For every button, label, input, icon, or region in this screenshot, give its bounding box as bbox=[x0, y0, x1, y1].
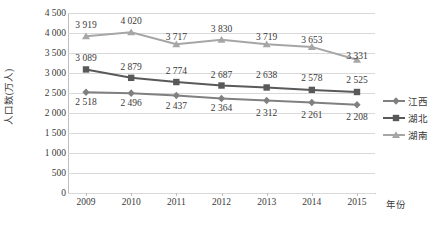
data-label: 2 578 bbox=[301, 73, 322, 83]
data-point-marker bbox=[308, 99, 315, 107]
data-label: 2 638 bbox=[256, 70, 277, 80]
y-axis-title: 人口数(万人) bbox=[0, 0, 16, 193]
y-axis-tick-label: 1 000 bbox=[20, 148, 66, 158]
data-point-marker bbox=[128, 89, 135, 97]
legend-item-湖北[interactable]: 湖北 bbox=[383, 109, 437, 126]
y-axis-tick-label: 1 500 bbox=[20, 128, 66, 138]
data-label: 3 717 bbox=[166, 32, 187, 42]
data-point-marker bbox=[83, 66, 89, 72]
data-point-marker bbox=[128, 75, 134, 81]
data-point-marker bbox=[263, 84, 269, 90]
y-axis-tick-label: 4 000 bbox=[20, 28, 66, 38]
data-label: 2 312 bbox=[256, 108, 277, 118]
x-axis-tick-labels: 2009201020112012201320142015 bbox=[68, 197, 376, 211]
x-axis-tick-label: 2015 bbox=[348, 197, 367, 207]
population-line-chart: 人口数(万人) 4 5004 0003 5003 0002 5002 0001 … bbox=[0, 0, 437, 226]
x-axis-tick-label: 2013 bbox=[257, 197, 276, 207]
x-axis-tick bbox=[176, 193, 177, 196]
data-label: 2 687 bbox=[211, 70, 232, 80]
y-axis-title-label: 人口数(万人) bbox=[1, 68, 15, 124]
legend-marker-diamond-icon bbox=[383, 95, 405, 107]
legend-marker-triangle-icon bbox=[383, 129, 405, 141]
data-label: 2 525 bbox=[346, 75, 367, 85]
y-axis-tick-label: 3 000 bbox=[20, 68, 66, 78]
x-axis-tick-label: 2010 bbox=[122, 197, 141, 207]
y-axis-tick-label: 500 bbox=[20, 168, 66, 178]
x-axis-title: 年份 bbox=[386, 197, 406, 211]
legend-item-湖南[interactable]: 湖南 bbox=[383, 126, 437, 143]
x-axis-tick bbox=[131, 193, 132, 196]
data-label: 4 020 bbox=[120, 16, 141, 26]
data-point-marker bbox=[392, 97, 399, 105]
data-point-marker bbox=[263, 97, 270, 105]
y-axis-tick-labels: 4 5004 0003 5003 0002 5002 0001 5001 000… bbox=[18, 0, 66, 200]
x-axis-tick bbox=[222, 193, 223, 196]
data-label: 3 919 bbox=[75, 20, 96, 30]
data-label: 3 830 bbox=[211, 24, 232, 34]
legend: 江西湖北湖南 bbox=[383, 92, 437, 143]
data-point-marker bbox=[393, 114, 399, 120]
legend-marker-square-icon bbox=[383, 112, 405, 124]
y-axis-tick-label: 4 500 bbox=[20, 8, 66, 18]
x-axis-tick bbox=[312, 193, 313, 196]
legend-label: 湖南 bbox=[405, 128, 428, 142]
data-label: 2 364 bbox=[211, 103, 232, 113]
legend-label: 江西 bbox=[405, 94, 428, 108]
legend-label: 湖北 bbox=[405, 111, 428, 125]
data-point-marker bbox=[173, 92, 180, 100]
data-label: 2 518 bbox=[75, 97, 96, 107]
data-point-marker bbox=[173, 79, 179, 85]
x-axis-tick-label: 2011 bbox=[167, 197, 186, 207]
y-axis-tick-label: 3 500 bbox=[20, 48, 66, 58]
x-axis-tick bbox=[357, 193, 358, 196]
data-point-marker bbox=[218, 82, 224, 88]
legend-item-江西[interactable]: 江西 bbox=[383, 92, 437, 109]
data-label: 2 879 bbox=[120, 62, 141, 72]
data-label: 2 261 bbox=[301, 110, 322, 120]
y-axis-tick-label: 2 500 bbox=[20, 88, 66, 98]
data-label: 2 437 bbox=[166, 101, 187, 111]
data-point-marker bbox=[353, 101, 360, 109]
y-axis-tick-label: 2 000 bbox=[20, 108, 66, 118]
x-axis-tick-label: 2014 bbox=[302, 197, 321, 207]
x-axis-tick-label: 2009 bbox=[77, 197, 96, 207]
x-axis-tick bbox=[267, 193, 268, 196]
data-label: 2 208 bbox=[346, 112, 367, 122]
x-axis-tick bbox=[86, 193, 87, 196]
data-label: 2 496 bbox=[120, 98, 141, 108]
data-point-marker bbox=[392, 131, 400, 138]
data-point-marker bbox=[354, 89, 360, 95]
data-label: 3 331 bbox=[346, 51, 367, 61]
data-point-marker bbox=[218, 95, 225, 103]
data-label: 3 653 bbox=[301, 35, 322, 45]
x-axis-tick-label: 2012 bbox=[212, 197, 231, 207]
data-label: 2 774 bbox=[166, 66, 187, 76]
y-axis-tick-label: 0 bbox=[20, 188, 66, 198]
data-point-marker bbox=[309, 87, 315, 93]
data-label: 3 089 bbox=[75, 53, 96, 63]
data-label: 3 719 bbox=[256, 32, 277, 42]
data-point-marker bbox=[82, 88, 89, 96]
